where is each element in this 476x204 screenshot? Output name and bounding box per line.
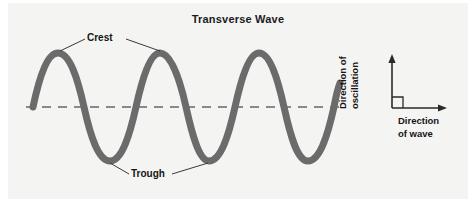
crest-leader-line-left [60, 39, 85, 51]
wave-axis-label-line2: of wave [398, 127, 439, 140]
oscillation-axis-label: Direction of oscillation [337, 47, 361, 109]
wave-axis-arrowhead [438, 104, 447, 111]
trough-leader-line-right [172, 163, 208, 174]
right-angle-marker-icon [392, 97, 403, 108]
wave-axis-label-line1: Direction [398, 114, 439, 127]
wave-diagram-svg [0, 0, 476, 204]
trough-label: Trough [131, 168, 165, 179]
crest-label: Crest [87, 32, 113, 43]
oscillation-axis-label-line2: oscillation [349, 47, 361, 109]
oscillation-axis-arrowhead [388, 54, 395, 63]
crest-leader-line-right [126, 39, 160, 51]
trough-leader-line-left [110, 163, 129, 174]
wave-axis-label: Direction of wave [398, 114, 439, 140]
transverse-wave-figure: Transverse Wave Crest Trough Direction o… [0, 0, 476, 204]
oscillation-axis-label-line1: Direction of [337, 47, 349, 109]
